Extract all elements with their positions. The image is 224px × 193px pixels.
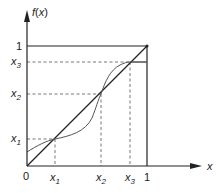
x-axis-arrow-icon xyxy=(190,163,202,169)
fixed-point-diagram: f(x) x 0 x1 x2 x3 1 1 x3 x2 x1 xyxy=(0,0,224,193)
x-axis-label: x xyxy=(206,160,213,172)
x-tick-x3: x3 xyxy=(124,171,136,186)
y-tick-x1: x1 xyxy=(10,132,21,147)
y-tick-x3: x3 xyxy=(10,55,22,70)
y-axis-arrow-icon xyxy=(24,10,30,22)
identity-line xyxy=(27,46,147,166)
x-tick-x2: x2 xyxy=(95,171,107,186)
x-tick-1: 1 xyxy=(144,171,150,183)
y-tick-x2: x2 xyxy=(10,87,22,102)
axes xyxy=(24,10,202,169)
y-tick-1: 1 xyxy=(16,40,22,52)
function-curve xyxy=(27,62,147,152)
origin-label: 0 xyxy=(23,170,29,182)
y-axis-label: f(x) xyxy=(32,6,48,18)
x-tick-x1: x1 xyxy=(49,171,60,186)
